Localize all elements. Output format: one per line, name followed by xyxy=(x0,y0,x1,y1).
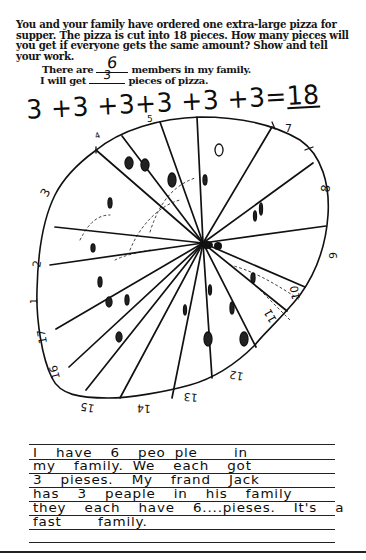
ruled-line xyxy=(29,542,335,543)
ruled-line xyxy=(29,529,335,530)
svg-text:4: 4 xyxy=(94,131,102,141)
svg-text:8: 8 xyxy=(318,184,333,194)
written-explanation: I have 6 peo ple in my family. We each g… xyxy=(29,444,335,540)
svg-text:7: 7 xyxy=(285,122,292,135)
svg-text:17: 17 xyxy=(35,329,50,345)
explanation-line: 3 pieses. My frand Jack xyxy=(33,473,260,486)
rim-ticks xyxy=(96,122,313,153)
svg-text:15: 15 xyxy=(79,400,95,415)
explanation-line: they each have 6....pieses. It's a xyxy=(33,501,344,514)
svg-text:2: 2 xyxy=(30,259,44,268)
svg-text:1: 1 xyxy=(29,298,39,304)
svg-text:12: 12 xyxy=(228,368,244,383)
page-border-line xyxy=(0,551,366,553)
svg-text:9: 9 xyxy=(327,252,340,259)
pizza-drawing: 4 5 7 8 9 10 11 12 13 14 15 16 17 1 2 3 xyxy=(0,0,366,430)
svg-text:13: 13 xyxy=(183,390,198,404)
rim-labels: 4 5 7 8 9 10 11 12 13 14 15 16 17 1 2 3 xyxy=(29,114,340,415)
svg-text:14: 14 xyxy=(137,402,151,415)
pizza-toppings xyxy=(91,144,263,346)
explanation-line: fast family. xyxy=(33,515,148,528)
sauce-marks xyxy=(80,178,300,320)
svg-text:10: 10 xyxy=(288,285,303,301)
explanation-line: my family. We each got xyxy=(33,459,252,472)
svg-text:16: 16 xyxy=(47,364,63,381)
slice-cuts xyxy=(50,117,326,398)
svg-text:5: 5 xyxy=(147,114,153,124)
explanation-line: has 3 peaple in his family xyxy=(33,487,292,500)
svg-text:3: 3 xyxy=(37,186,53,200)
explanation-line: I have 6 peo ple in xyxy=(33,446,248,459)
